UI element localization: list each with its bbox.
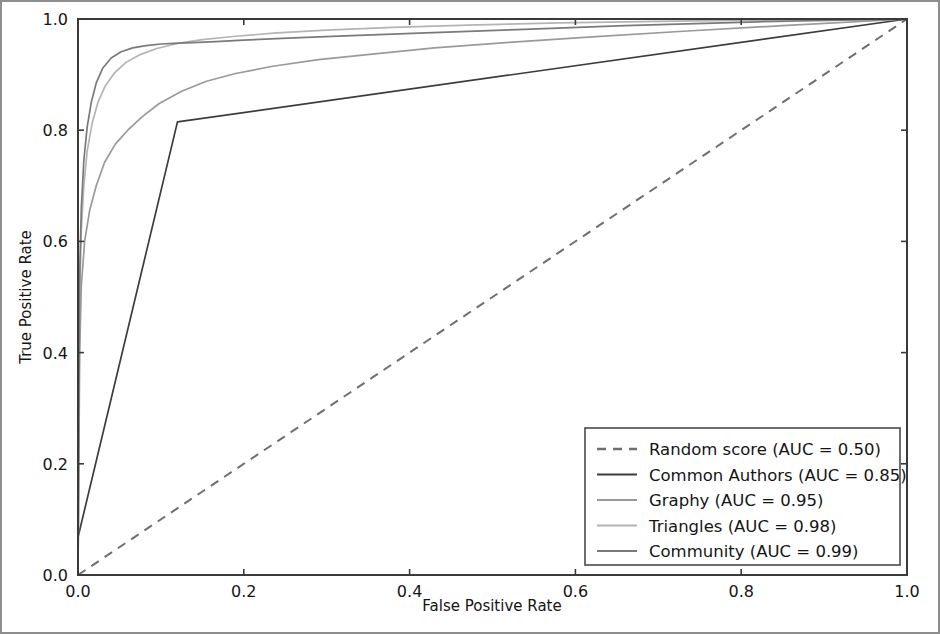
- y-tick-label: 0.4: [43, 344, 68, 363]
- x-tick-label: 0.8: [728, 582, 753, 601]
- y-tick-label: 1.0: [43, 10, 68, 29]
- x-tick-label: 0.4: [397, 582, 422, 601]
- x-tick-label: 0.2: [231, 582, 256, 601]
- x-tick-label: 1.0: [894, 582, 919, 601]
- figure-container: 0.00.20.40.60.81.0 0.00.20.40.60.81.0 Fa…: [0, 0, 940, 634]
- legend-label-community: Community (AUC = 0.99): [649, 542, 859, 561]
- legend-label-common-authors: Common Authors (AUC = 0.85): [649, 466, 907, 485]
- legend-label-random-score: Random score (AUC = 0.50): [649, 440, 881, 459]
- y-axis-label: True Positive Rate: [17, 230, 35, 365]
- x-axis-label: False Positive Rate: [422, 597, 561, 615]
- y-tick-label: 0.8: [43, 121, 68, 140]
- legend-label-triangles: Triangles (AUC = 0.98): [648, 517, 836, 536]
- chart-legend: Random score (AUC = 0.50)Common Authors …: [585, 428, 907, 565]
- legend-label-graphy: Graphy (AUC = 0.95): [649, 491, 823, 510]
- y-tick-label: 0.0: [43, 566, 68, 585]
- x-tick-label: 0.0: [65, 582, 90, 601]
- roc-chart: 0.00.20.40.60.81.0 0.00.20.40.60.81.0 Fa…: [2, 2, 940, 634]
- x-tick-label: 0.6: [563, 582, 588, 601]
- y-tick-label: 0.2: [43, 455, 68, 474]
- y-tick-label: 0.6: [43, 232, 68, 251]
